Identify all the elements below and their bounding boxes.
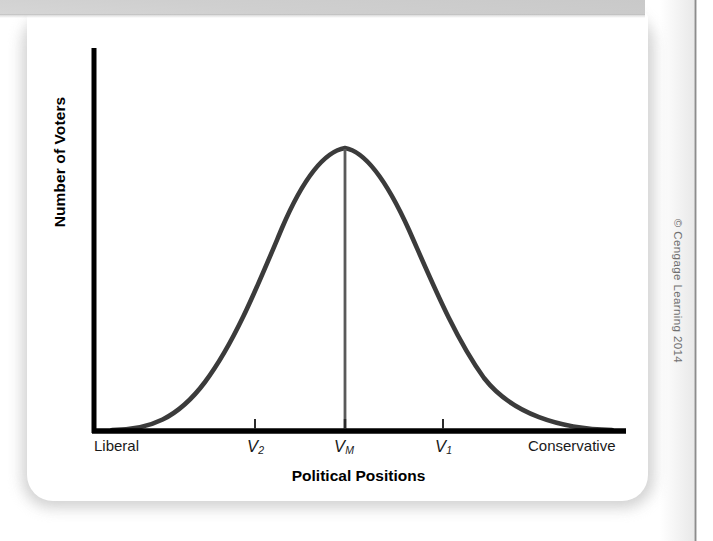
x-axis-label-vm: VM bbox=[334, 437, 354, 456]
y-axis-title: Number of Voters bbox=[51, 62, 69, 262]
x-axis-label-vm-text: V bbox=[334, 437, 345, 455]
x-axis-label-v1: V1 bbox=[435, 437, 452, 456]
bell-curve-chart bbox=[0, 0, 713, 541]
voter-distribution-curve bbox=[112, 148, 612, 430]
figure-page: Number of Voters Liberal V2 VM V1 Conser… bbox=[0, 0, 713, 541]
x-axis-title: Political Positions bbox=[92, 467, 625, 485]
x-axis-label-vm-subscript: M bbox=[345, 444, 354, 456]
x-axis-label-v1-subscript: 1 bbox=[446, 444, 452, 456]
x-axis-label-conservative: Conservative bbox=[528, 437, 616, 454]
copyright-notice: © Cengage Learning 2014 bbox=[672, 206, 684, 376]
x-axis-label-v2-subscript: 2 bbox=[258, 444, 264, 456]
x-axis-label-v1-text: V bbox=[435, 437, 446, 455]
x-axis-label-liberal: Liberal bbox=[94, 437, 139, 454]
x-axis-label-v2-text: V bbox=[247, 437, 258, 455]
x-axis-label-v2: V2 bbox=[247, 437, 264, 456]
